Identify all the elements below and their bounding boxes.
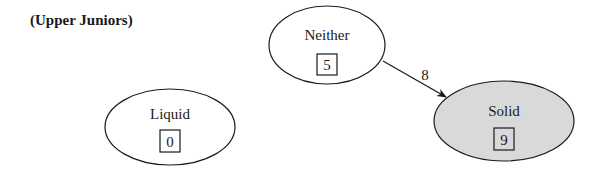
arrow-line <box>383 61 446 97</box>
node-label: Solid <box>488 103 520 119</box>
node-neither: Neither 5 <box>269 6 385 84</box>
edge-label: 8 <box>421 67 429 83</box>
state-diagram: 8 Neither 5 Solid 9 Liquid 0 <box>0 0 594 173</box>
node-ellipse <box>105 89 235 165</box>
edge-neither-to-solid: 8 <box>383 61 446 97</box>
node-label: Neither <box>305 27 350 43</box>
node-liquid: Liquid 0 <box>105 89 235 165</box>
node-count: 5 <box>323 57 331 73</box>
node-count: 0 <box>166 134 174 150</box>
node-ellipse <box>434 81 574 161</box>
node-solid: Solid 9 <box>434 81 574 161</box>
node-count: 9 <box>500 132 508 148</box>
node-label: Liquid <box>150 106 190 122</box>
